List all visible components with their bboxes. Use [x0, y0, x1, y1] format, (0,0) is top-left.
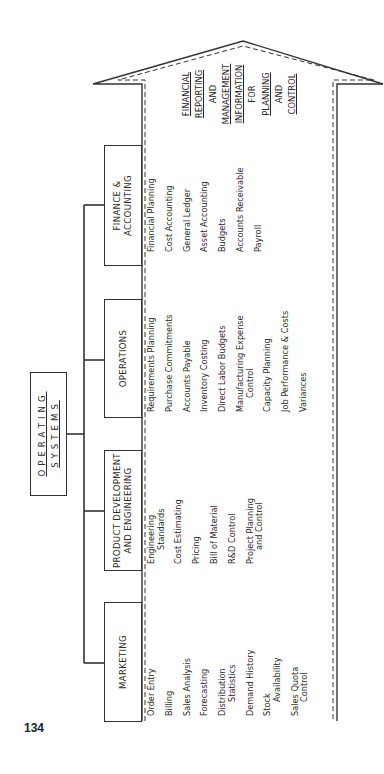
- root-title-line2: SYSTEMS: [49, 391, 62, 476]
- list-item: Variances: [299, 372, 309, 412]
- list-item: Demand History: [246, 650, 256, 716]
- list-item: Requirements Planning: [147, 317, 157, 412]
- operating-systems-box: OPERATING SYSTEMS: [30, 372, 67, 496]
- arrow-label-line: CONTROL: [286, 54, 299, 134]
- list-item: Financial Planning: [147, 178, 157, 252]
- list-item: Bill of Material: [210, 505, 220, 564]
- list-item: Capacity Planning: [263, 338, 273, 412]
- list-item: Inventory Costing: [200, 339, 210, 412]
- list-item: Project Planningand Control: [246, 498, 265, 564]
- list-item: Job Performance & Costs: [281, 311, 291, 412]
- diagram-stage: OPERATING SYSTEMS MARKETING PRODUCT DEVE…: [0, 0, 384, 774]
- arrow-label-line: MANAGEMENT: [220, 54, 233, 134]
- list-item: DistributionStatistics: [218, 665, 237, 716]
- list-item: R&D Control: [228, 513, 238, 564]
- list-item: Pricing: [192, 536, 202, 564]
- list-item: Accounts Payable: [183, 340, 193, 412]
- operations-box: OPERATIONS: [104, 299, 142, 418]
- list-item: Sales Analysis: [183, 658, 193, 716]
- list-item: Payroll: [254, 225, 264, 252]
- list-item: Cost Estimating: [174, 499, 184, 564]
- list-item: Order Entry: [147, 668, 157, 716]
- list-item: StockAvailability: [263, 657, 282, 716]
- marketing-label: MARKETING: [118, 635, 129, 689]
- list-item: Billing: [165, 691, 175, 716]
- root-title-line1: OPERATING: [36, 391, 49, 476]
- list-item: Asset Accounting: [200, 181, 210, 252]
- product-dev-label-line1: PRODUCT DEVELOPMENT: [112, 453, 123, 568]
- list-item: EngineeringStandards: [147, 508, 166, 564]
- list-item: Accounts Receivable: [236, 168, 246, 252]
- arrow-label-line: FOR: [246, 54, 259, 134]
- finance-label-line2: ACCOUNTING: [123, 175, 134, 236]
- list-item: Manufacturing ExpenseControl: [236, 315, 255, 412]
- operations-label: OPERATIONS: [118, 330, 129, 388]
- arrow-label: FINANCIALREPORTINGANDMANAGEMENTINFORMATI…: [180, 54, 300, 134]
- marketing-box: MARKETING: [104, 602, 142, 722]
- product-development-box: PRODUCT DEVELOPMENT AND ENGINEERING: [104, 450, 142, 571]
- list-item: Cost Accounting: [165, 185, 175, 252]
- product-dev-label-line2: AND ENGINEERING: [123, 453, 134, 568]
- list-item: Forecasting: [200, 669, 210, 716]
- finance-accounting-box: FINANCE & ACCOUNTING: [104, 145, 142, 266]
- arrow-label-line: INFORMATION: [233, 54, 246, 134]
- list-item: General Ledger: [183, 189, 193, 252]
- list-item: Direct Labor Budgets: [218, 325, 228, 412]
- arrow-label-line: REPORTING: [193, 54, 206, 134]
- finance-label-line1: FINANCE &: [112, 175, 123, 236]
- list-item: Sales QuotaControl: [291, 667, 310, 716]
- arrow-label-line: AND: [207, 54, 220, 134]
- arrow-label-line: AND: [273, 54, 286, 134]
- arrow-label-line: FINANCIAL: [180, 54, 193, 134]
- arrow-label-line: PLANNING: [260, 54, 273, 134]
- list-item: Budgets: [218, 218, 228, 252]
- list-item: Purchase Commitments: [165, 314, 175, 412]
